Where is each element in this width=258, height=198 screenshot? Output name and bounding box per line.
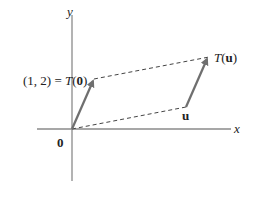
arrow-t0 bbox=[72, 81, 93, 129]
dashed-origin-to-u bbox=[72, 107, 186, 129]
t0-label: (1, 2) = T(0) bbox=[23, 74, 87, 87]
u-label: u bbox=[182, 109, 189, 122]
dashed-t0-to-tu bbox=[94, 57, 209, 79]
tu-label: T(u) bbox=[214, 51, 237, 64]
arrow-tu bbox=[186, 59, 207, 107]
origin-label: 0 bbox=[57, 136, 64, 149]
x-axis-label: x bbox=[234, 122, 240, 135]
diagram-canvas bbox=[0, 0, 258, 198]
y-axis-label: y bbox=[67, 5, 73, 18]
